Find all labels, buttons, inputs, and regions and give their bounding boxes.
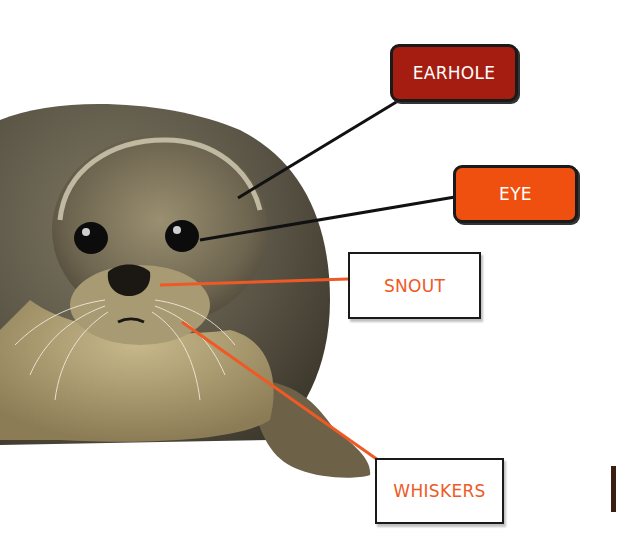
label-snout-text: SNOUT xyxy=(384,276,445,296)
seal-illustration xyxy=(0,0,618,542)
label-earhole: EARHOLE xyxy=(390,44,518,102)
label-earhole-text: EARHOLE xyxy=(413,63,496,83)
label-snout: SNOUT xyxy=(348,252,481,319)
label-whiskers-text: WHISKERS xyxy=(393,481,485,501)
edge-divider xyxy=(611,466,616,512)
seal-anatomy-diagram: EARHOLE EYE SNOUT WHISKERS xyxy=(0,0,618,542)
label-whiskers: WHISKERS xyxy=(375,458,504,524)
label-eye: EYE xyxy=(453,165,578,223)
label-eye-text: EYE xyxy=(499,184,532,204)
